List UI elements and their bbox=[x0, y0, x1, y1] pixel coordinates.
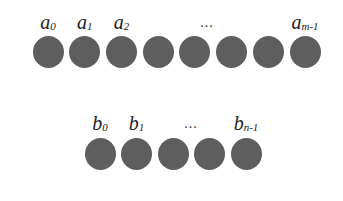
row-a-label: am-1 bbox=[291, 12, 318, 32]
row-b-element-circle bbox=[158, 138, 189, 170]
row-b-element-circle bbox=[194, 138, 225, 170]
row-b-label: bn-1 bbox=[234, 113, 259, 133]
row-b-label: b1 bbox=[129, 113, 145, 133]
row-b-label: b0 bbox=[92, 113, 108, 133]
row-b-element-circle bbox=[121, 138, 152, 170]
row-b-element-circle bbox=[85, 138, 116, 170]
row-a-element-circle bbox=[216, 36, 247, 68]
row-a-label: a0 bbox=[40, 12, 56, 32]
row-b-ellipsis: ... bbox=[184, 117, 198, 131]
row-a-element-circle bbox=[253, 36, 284, 68]
row-a-element-circle bbox=[143, 36, 174, 68]
row-a-element-circle bbox=[33, 36, 64, 68]
row-a-element-circle bbox=[290, 36, 321, 68]
row-a-label: a1 bbox=[77, 12, 93, 32]
row-a-element-circle bbox=[106, 36, 137, 68]
row-a-element-circle bbox=[69, 36, 100, 68]
row-b-element-circle bbox=[231, 138, 262, 170]
row-a-ellipsis: ... bbox=[200, 16, 214, 30]
row-a-element-circle bbox=[179, 36, 210, 68]
row-a-label: a2 bbox=[114, 12, 130, 32]
